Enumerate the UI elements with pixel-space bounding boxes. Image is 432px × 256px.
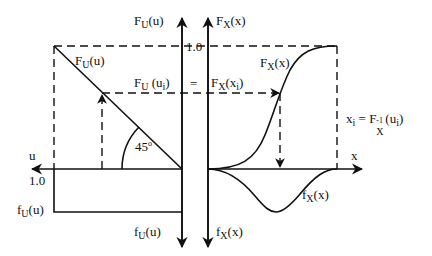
x-pdf-label: fX(x) [302, 188, 329, 204]
fu-pdf-axis-label: fU(u) [134, 225, 161, 241]
inverse-transform-diagram: FU(u) 1.0 FU(u) FU (ui) = 45o u 1.0 fU(u… [0, 0, 432, 256]
diagram-canvas [0, 0, 432, 256]
fx-axis-label: FX(x) [216, 14, 246, 30]
uniform-cdf-line [54, 46, 182, 169]
x-axis-label: x [351, 149, 358, 162]
angle-label: 45o [135, 140, 152, 153]
u-axis-label: u [29, 149, 36, 162]
equality-left: FU (ui) [134, 76, 170, 92]
uniform-cdf-label: FU(u) [75, 54, 105, 70]
uniform-pdf-label: fU(u) [17, 203, 44, 219]
uniform-pdf-box [54, 169, 182, 212]
fx-pdf-axis-label: fX(x) [216, 225, 243, 241]
inverse-formula: xi = F-1X(ui) [346, 112, 403, 128]
equality-sign: = [190, 77, 197, 90]
fu-axis-label: FU(u) [134, 14, 164, 30]
x-cdf-label: FX(x) [260, 56, 290, 72]
tick-1-left: 1.0 [29, 174, 45, 187]
tick-1-top: 1.0 [186, 40, 202, 53]
equality-right: FX(xi) [211, 76, 243, 92]
